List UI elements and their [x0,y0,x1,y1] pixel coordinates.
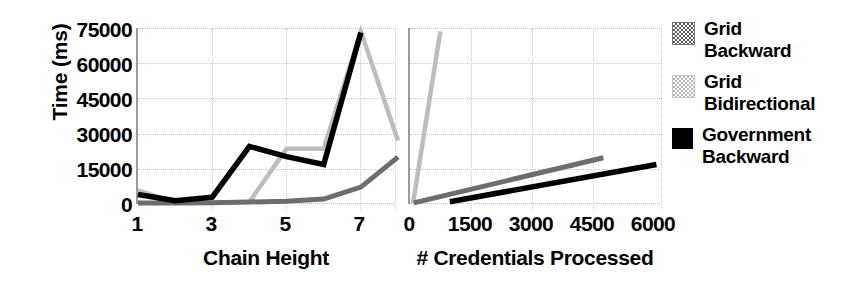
series-line-grid-bidirectional [138,31,398,202]
series-lines-left [138,28,398,204]
legend-label-grid-backward: GridBackward [704,18,791,62]
legend-item-grid-bidirectional[interactable]: GridBidirectional [672,71,864,115]
plot-area-left [138,28,396,204]
x-tick-ch-5: 5 [279,212,290,236]
x-axis-title-right: # Credentials Processed [416,246,653,270]
chart-legend: GridBackwardGridBidirectionalGovernmentB… [672,18,864,177]
panel-chain-height [136,28,396,204]
legend-label-line2: Backward [704,40,791,62]
y-tick-60000: 60000 [44,54,132,75]
x-tick-cred-6000: 6000 [631,212,675,236]
y-tick-0: 0 [44,194,132,215]
series-line-grid-backward [138,157,398,203]
y-tick-45000: 45000 [44,89,132,110]
legend-label-government-backward: GovernmentBackward [702,124,811,168]
y-axis-tick-labels: 75000600004500030000150000 [42,0,132,293]
y-tick-75000: 75000 [44,19,132,40]
x-tick-ch-7: 7 [353,212,364,236]
legend-item-grid-backward[interactable]: GridBackward [672,18,864,62]
series-line-government-backward [138,33,361,201]
legend-label-line1: Grid [704,71,815,93]
legend-swatch-government-backward-icon [672,128,693,149]
x-tick-ch-1: 1 [131,212,142,236]
y-tick-30000: 30000 [44,124,132,145]
legend-swatch-grid-bidirectional-icon [672,75,695,98]
plot-area-right [410,28,662,204]
x-axis-title-left: Chain Height [203,246,329,270]
legend-item-government-backward[interactable]: GovernmentBackward [672,124,864,168]
legend-label-line1: Government [702,124,811,146]
x-tick-cred-3000: 3000 [509,212,553,236]
legend-label-line2: Bidirectional [704,93,815,115]
legend-label-grid-bidirectional: GridBidirectional [704,71,815,115]
x-tick-cred-0: 0 [403,212,414,236]
x-tick-cred-1500: 1500 [448,212,492,236]
y-tick-15000: 15000 [44,159,132,180]
panel-credentials-processed [408,28,662,204]
legend-label-line1: Grid [704,18,791,40]
legend-label-line2: Backward [702,146,811,168]
series-lines-right [410,28,664,204]
x-tick-cred-4500: 4500 [570,212,614,236]
chart-figure: Time (ms) 75000600004500030000150000 [0,0,864,293]
x-tick-ch-3: 3 [205,212,216,236]
legend-swatch-grid-backward-icon [672,22,695,45]
series-line-grid-bidirectional [413,31,440,203]
